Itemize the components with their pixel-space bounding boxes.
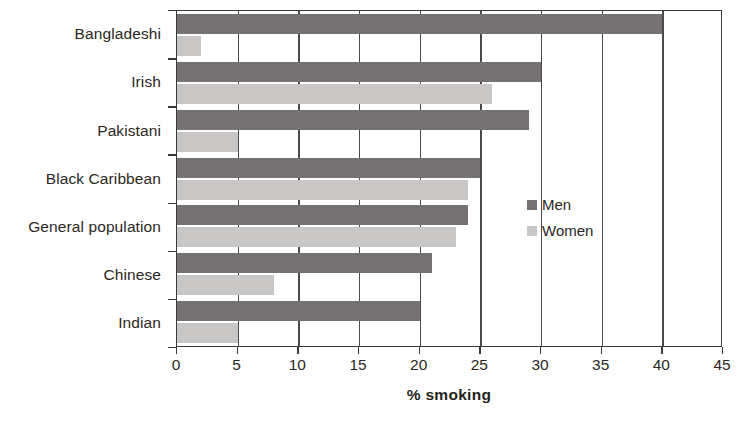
- category-label: Bangladeshi: [0, 10, 170, 58]
- legend-swatch-men-icon: [527, 200, 537, 210]
- bar-men: [177, 62, 541, 82]
- bar-women: [177, 132, 238, 152]
- bar-women: [177, 36, 201, 56]
- bar-group: [177, 107, 721, 155]
- y-axis-tick: [168, 154, 176, 155]
- category-label: General population: [0, 203, 170, 251]
- x-axis-title: % smoking: [176, 386, 722, 404]
- x-axis-tick: [419, 347, 420, 354]
- bar-men: [177, 205, 468, 225]
- x-axis-tick-label: 30: [531, 356, 548, 374]
- bar-group: [177, 155, 721, 203]
- category-label: Black Caribbean: [0, 154, 170, 202]
- x-axis-tick-label: 25: [471, 356, 488, 374]
- bar-gap: [177, 130, 721, 132]
- y-axis-tick: [168, 347, 176, 348]
- bar-gap: [177, 321, 721, 323]
- category-label: Pakistani: [0, 106, 170, 154]
- x-axis-tick: [176, 347, 177, 354]
- legend-swatch-women-icon: [527, 226, 537, 236]
- bar-women: [177, 227, 456, 247]
- y-axis-tick: [168, 203, 176, 204]
- legend-item-men: Men: [527, 196, 593, 213]
- legend-label-women: Women: [542, 222, 593, 239]
- x-axis: 051015202530354045: [176, 347, 722, 348]
- x-axis-tick: [237, 347, 238, 354]
- legend-item-women: Women: [527, 222, 593, 239]
- smoking-prevalence-bar-chart: Bangladeshi Irish Pakistani Black Caribb…: [0, 0, 739, 421]
- y-axis-tick: [168, 106, 176, 107]
- category-label-column: Bangladeshi Irish Pakistani Black Caribb…: [0, 10, 170, 347]
- y-axis-tick: [168, 10, 176, 11]
- x-axis-tick-label: 40: [653, 356, 670, 374]
- bar-men: [177, 14, 662, 34]
- bar-women: [177, 180, 468, 200]
- bar-group: [177, 11, 721, 59]
- legend: Men Women: [527, 196, 593, 248]
- bar-women: [177, 84, 492, 104]
- x-axis-tick-label: 0: [172, 356, 181, 374]
- category-label: Chinese: [0, 251, 170, 299]
- bar-men: [177, 110, 529, 130]
- bar-group: [177, 298, 721, 346]
- category-label: Indian: [0, 299, 170, 347]
- x-axis-tick: [297, 347, 298, 354]
- x-axis-tick: [601, 347, 602, 354]
- bar-men: [177, 301, 420, 321]
- bar-men: [177, 253, 432, 273]
- bar-gap: [177, 34, 721, 36]
- y-axis-tick: [168, 58, 176, 59]
- bar-group: [177, 250, 721, 298]
- category-label: Irish: [0, 58, 170, 106]
- bar-women: [177, 275, 274, 295]
- bar-group: [177, 59, 721, 107]
- y-axis-tick: [168, 299, 176, 300]
- x-axis-tick-label: 45: [713, 356, 730, 374]
- y-axis-ticks: [168, 10, 176, 347]
- bar-groups: [177, 11, 721, 346]
- x-axis-tick-label: 35: [592, 356, 609, 374]
- bar-men: [177, 158, 480, 178]
- x-axis-tick: [479, 347, 480, 354]
- x-axis-tick: [358, 347, 359, 354]
- x-axis-tick: [661, 347, 662, 354]
- x-axis-tick: [540, 347, 541, 354]
- bar-group: [177, 202, 721, 250]
- x-axis-tick-label: 10: [289, 356, 306, 374]
- legend-label-men: Men: [542, 196, 571, 213]
- x-axis-tick: [722, 347, 723, 354]
- y-axis-tick: [168, 251, 176, 252]
- x-axis-tick-label: 20: [410, 356, 427, 374]
- x-axis-tick-label: 5: [232, 356, 241, 374]
- x-axis-tick-label: 15: [349, 356, 366, 374]
- plot-area: [176, 10, 722, 347]
- bar-women: [177, 323, 238, 343]
